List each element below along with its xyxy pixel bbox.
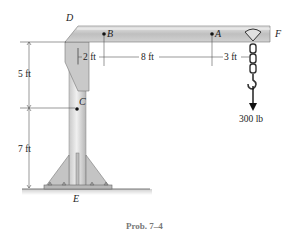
dim-8ft: 8 ft	[141, 52, 154, 62]
label-E: E	[72, 193, 79, 204]
ground	[22, 189, 152, 195]
label-D: D	[65, 12, 74, 23]
label-B: B	[107, 28, 113, 39]
point-C-marker	[75, 107, 79, 111]
dim-7ft: 7 ft	[18, 144, 31, 154]
load-arrow	[249, 86, 257, 111]
dim-5ft: 5 ft	[18, 69, 31, 79]
jib-crane-diagram: D B A F C E 2 ft 8 ft 3 ft 5 ft 7 ft 300…	[0, 0, 299, 240]
caption: Prob. 7–4	[126, 221, 163, 231]
label-A: A	[214, 28, 222, 39]
label-C: C	[79, 96, 86, 107]
base-plate	[44, 153, 112, 189]
label-F: F	[274, 28, 282, 39]
dim-3ft: 3 ft	[224, 52, 237, 62]
dim-2ft: 2 ft	[83, 52, 96, 62]
beam	[65, 26, 270, 42]
load-label: 300 lb	[239, 114, 263, 124]
